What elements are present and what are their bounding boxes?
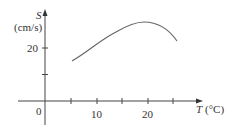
- y-tick-label-20: 20: [27, 42, 39, 54]
- origin-label: 0: [36, 105, 42, 117]
- x-axis-name: T: [196, 103, 203, 115]
- y-axis-unit: (cm/s): [14, 21, 42, 34]
- x-tick-label-20: 20: [142, 108, 154, 120]
- x-axis-unit: (°C): [205, 103, 224, 116]
- y-axis-name: S: [36, 9, 42, 21]
- y-axis-arrow-icon: [43, 9, 48, 16]
- x-tick-label-10: 10: [91, 108, 103, 120]
- chart: S (cm/s) 20 0 10 20 T (°C): [0, 0, 232, 133]
- data-curve: [72, 22, 177, 61]
